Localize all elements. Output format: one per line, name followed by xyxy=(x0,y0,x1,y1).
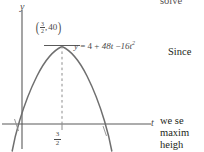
body-text-line-2: maxim xyxy=(160,128,189,139)
vertex-y-value: 40 xyxy=(48,23,57,32)
figure-page: y t ( 3 2 , 40 ) y = 4 + 48t −16t2 3 xyxy=(0,0,204,152)
tick-denominator: 2 xyxy=(56,140,60,148)
curve-equation-label: y = 4 + 48t −16t2 xyxy=(74,42,135,51)
parabola-curve xyxy=(12,47,112,152)
tick-numerator: 3 xyxy=(56,131,60,139)
body-text-line-1: we se xyxy=(160,116,184,127)
body-text-line-3: heigh xyxy=(160,140,183,151)
vertex-open-paren: ( xyxy=(36,20,40,35)
vertex-coordinate-label: ( 3 2 , 40 ) xyxy=(35,20,62,35)
equation-exponent: 2 xyxy=(132,40,135,46)
t-axis-label: t xyxy=(151,118,154,128)
equation-lhs: y xyxy=(74,41,78,51)
equation-quadratic-coefficient: 16t xyxy=(121,41,133,51)
x-tick-label-three-halves: 3 2 xyxy=(54,131,61,147)
parabola-plot-svg xyxy=(0,0,158,152)
equation-constant: 4 xyxy=(88,41,93,51)
equation-linear-term: 48t xyxy=(102,41,114,51)
equation-equals: = xyxy=(80,41,85,51)
vertex-separator: , xyxy=(45,23,47,32)
equation-plus: + xyxy=(94,41,99,51)
parabola-figure: y t ( 3 2 , 40 ) y = 4 + 48t −16t2 3 xyxy=(0,0,158,152)
vertex-close-paren: ) xyxy=(58,20,62,35)
body-text-line-top: solve xyxy=(160,0,182,7)
body-text-column: solve Since we se maxim heigh xyxy=(158,0,204,152)
body-text-line-since: Since xyxy=(168,47,191,58)
y-axis-label: y xyxy=(20,2,24,12)
